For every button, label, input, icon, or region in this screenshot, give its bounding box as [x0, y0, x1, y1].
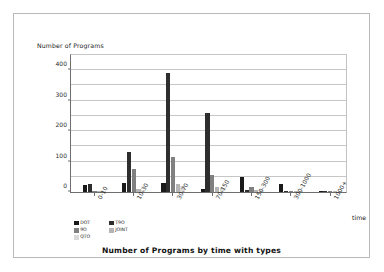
bar: [245, 190, 249, 192]
bar: [88, 184, 92, 192]
legend-swatch: [74, 235, 79, 240]
bar: [127, 152, 131, 192]
figure-frame: Number of Programs 0100200300400 0-1010-…: [13, 13, 370, 258]
bar-group: [161, 55, 185, 192]
legend-item: T9O: [109, 220, 144, 226]
bar: [319, 191, 323, 192]
bar: [210, 175, 214, 192]
legend-label: 9O: [80, 228, 87, 233]
bar: [249, 187, 253, 192]
bar: [92, 191, 96, 192]
legend-label: DOT: [80, 221, 90, 226]
y-axis-tick-label: 100: [56, 151, 67, 158]
chart-screenshot: Number of Programs 0100200300400 0-1010-…: [0, 0, 384, 272]
bar-group: [201, 55, 225, 192]
y-axis-tick-label: 0: [63, 182, 67, 189]
bar: [289, 191, 293, 192]
chart-title: Number of Programs by time with types: [14, 246, 369, 255]
y-axis-title: Number of Programs: [37, 42, 104, 49]
bar: [171, 157, 175, 192]
x-axis-tick-mark: [290, 193, 291, 196]
legend-swatch: [74, 228, 79, 233]
bar: [284, 191, 288, 192]
legend-item: DOT: [74, 220, 109, 226]
bar-group: [319, 55, 343, 192]
bar: [166, 73, 170, 192]
legend-swatch: [74, 221, 79, 226]
bar: [122, 183, 126, 192]
bar-group: [240, 55, 264, 192]
bar-group: [83, 55, 107, 192]
legend-label: T9O: [115, 221, 124, 226]
x-axis-tick-mark: [133, 193, 134, 196]
legend-label: QTO: [80, 235, 90, 240]
bar: [279, 184, 283, 192]
bar: [83, 185, 87, 192]
bar: [161, 183, 165, 192]
chart-legend: DOTT9O9OJOINTQTO: [74, 220, 144, 242]
bar-group: [122, 55, 146, 192]
bar: [328, 191, 332, 192]
x-axis-title: time: [352, 214, 366, 221]
legend-swatch: [109, 221, 114, 226]
legend-item: QTO: [74, 234, 109, 240]
bar: [323, 191, 327, 192]
bar-group: [279, 55, 303, 192]
x-axis-tick-mark: [251, 193, 252, 196]
legend-item: JOINT: [109, 227, 144, 233]
y-axis-tick-label: 200: [56, 121, 67, 128]
legend-label: JOINT: [115, 228, 128, 233]
bar: [132, 169, 136, 192]
x-axis-tick-mark: [212, 193, 213, 196]
bar: [240, 177, 244, 192]
y-axis-tick-label: 400: [56, 60, 67, 67]
x-axis-tick-mark: [94, 193, 95, 196]
x-axis-tick-mark: [172, 193, 173, 196]
legend-swatch: [109, 228, 114, 233]
bar: [201, 189, 205, 192]
y-axis-tick-label: 300: [56, 90, 67, 97]
bar: [205, 113, 209, 192]
legend-item: 9O: [74, 227, 109, 233]
x-axis-tick-mark: [330, 193, 331, 196]
